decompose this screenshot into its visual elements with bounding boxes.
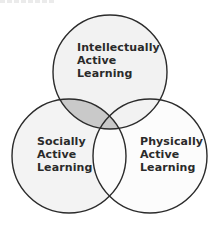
label-line: Learning — [140, 161, 203, 174]
label-line: Learning — [37, 161, 92, 174]
label-line: Active — [77, 54, 160, 67]
label-line: Active — [140, 148, 203, 161]
venn-diagram — [0, 0, 219, 226]
label-line: Learning — [77, 67, 160, 80]
label-intellectually-active-learning: Intellectually Active Learning — [77, 41, 160, 80]
label-line: Socially — [37, 135, 92, 148]
label-physically-active-learning: Physically Active Learning — [140, 135, 203, 174]
label-line: Physically — [140, 135, 203, 148]
label-line: Intellectually — [77, 41, 160, 54]
label-socially-active-learning: Socially Active Learning — [37, 135, 92, 174]
label-line: Active — [37, 148, 92, 161]
